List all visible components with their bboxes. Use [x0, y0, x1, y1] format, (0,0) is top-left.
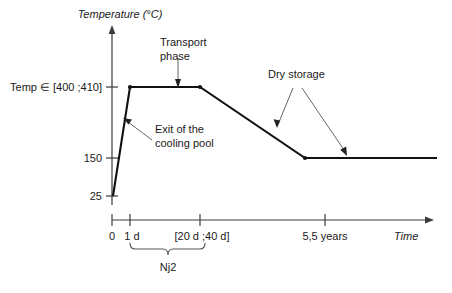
y-tick-label-405: Temp ∈ [400 ;410] [10, 81, 102, 94]
exit-cooling-pool-leader-line [128, 122, 152, 140]
brace-label-nj2: Nj2 [160, 261, 177, 274]
y-tick-label-25: 25 [90, 190, 102, 203]
dry-storage-leader-line-plateau [302, 88, 344, 150]
x-tick-label-5-5-years: 5,5 years [302, 230, 347, 243]
nj2-brace [130, 243, 205, 255]
x-axis-arrowhead [425, 217, 434, 224]
annotation-dry-storage: Dry storage [268, 68, 325, 81]
y-tick-label-150: 150 [84, 152, 102, 165]
curve-vertex-20d-40d [198, 85, 202, 89]
curve-vertex-5-5-years [303, 156, 307, 160]
x-tick-label-1d: 1 d [124, 230, 139, 243]
dry-storage-leader-line-slope [279, 88, 293, 122]
temperature-time-diagram [0, 0, 452, 293]
dry-storage-arrowhead-plateau [340, 146, 347, 156]
y-axis-arrowhead [109, 25, 116, 34]
dry-storage-arrowhead-slope [274, 119, 281, 128]
curve-vertex-1d [128, 85, 132, 89]
x-tick-label-0: 0 [109, 230, 115, 243]
x-tick-label-20d-40d: [20 d ;40 d] [174, 230, 229, 243]
annotation-transport-phase: Transport phase [160, 35, 207, 63]
annotation-exit-cooling-pool: Exit of the cooling pool [155, 122, 214, 150]
x-axis-title: Time [394, 230, 418, 243]
y-axis-title: Temperature (°C) [78, 8, 163, 21]
